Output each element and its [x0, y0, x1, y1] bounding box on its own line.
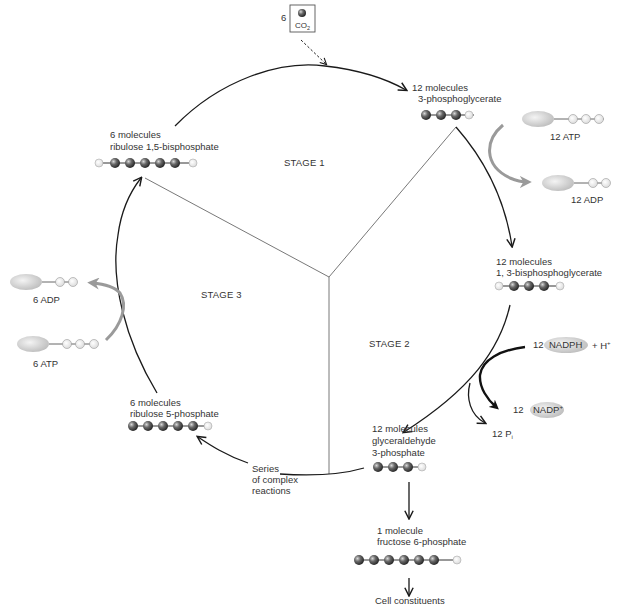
bpg-label-line2: 1, 3-bisphosphoglycerate [496, 267, 602, 278]
adp-12-icon [542, 175, 611, 191]
nadph-to-nadp-arrow [480, 347, 525, 407]
atp-to-adp-stage3-arrow [92, 283, 124, 340]
co2-dashed-arrow [301, 40, 326, 64]
rubp-molecule-icon [95, 158, 197, 168]
bpg-label-line1: 12 molecules [496, 256, 552, 267]
nadph-extra: + H+ [592, 340, 611, 351]
co2-input: 6 CO2 [281, 5, 326, 64]
nadph-label: NADPH [549, 339, 582, 350]
arrow-rubp-to-pga [175, 65, 406, 126]
atp-6-icon [17, 336, 99, 352]
atp-6-label: 6 ATP [33, 358, 58, 369]
adp-6-label: 6 ADP [33, 294, 60, 305]
series-line2: of complex [252, 474, 298, 485]
pga-label-line1: 12 molecules [412, 82, 468, 93]
pi-label: 12 Pi [492, 428, 513, 440]
nadp-label: NADP+ [533, 404, 563, 415]
series-line3: reactions [252, 485, 291, 496]
g3p-label-line3: 3-phosphate [372, 447, 425, 458]
stage-3-label: STAGE 3 [201, 289, 242, 300]
ru5p-label-line2: ribulose 5-phosphate [130, 408, 219, 419]
nadp-count: 12 [513, 404, 524, 415]
f6p-molecule-icon [354, 555, 461, 565]
ru5p-molecule-icon [128, 421, 212, 431]
arrow-ru5p-to-rubp [116, 178, 157, 393]
nadph-count: 12 [533, 339, 544, 350]
g3p-label-line2: glyceraldehyde [372, 435, 436, 446]
arrow-bpg-to-g3p [404, 305, 510, 432]
pga-molecule-icon [421, 110, 474, 120]
g3p-label-line1: 12 molecules [372, 423, 428, 434]
rubp-label-line2: ribulose 1,5-bisphosphate [110, 141, 219, 152]
series-line1: Series [252, 463, 279, 474]
co2-count: 6 [281, 12, 286, 23]
pga-label-line2: 3-phosphoglycerate [418, 93, 501, 104]
carbon-sphere-icon [298, 9, 306, 17]
arrow-series-to-ru5p [198, 437, 248, 463]
f6p-label-line2: fructose 6-phosphate [377, 536, 466, 547]
calvin-cycle-diagram: STAGE 1 STAGE 2 STAGE 3 6 CO2 12 molecul… [0, 0, 621, 613]
atp-12-label: 12 ATP [550, 131, 580, 142]
g3p-molecule-icon [373, 462, 426, 472]
ru5p-label-line1: 6 molecules [130, 397, 181, 408]
cell-constituents-label: Cell constituents [375, 595, 445, 606]
atp-to-adp-stage2-arrow [490, 125, 527, 182]
adp-12-label: 12 ADP [571, 194, 603, 205]
stage-1-label: STAGE 1 [284, 157, 325, 168]
arrow-pga-to-bpg [456, 127, 512, 246]
f6p-label-line1: 1 molecule [377, 525, 423, 536]
rubp-label-line1: 6 molecules [110, 129, 161, 140]
adp-6-icon [10, 274, 78, 290]
stage-2-label: STAGE 2 [369, 338, 410, 349]
divider-stage1-stage2 [329, 127, 456, 277]
atp-12-icon [522, 111, 604, 127]
bpg-molecule-icon [495, 281, 564, 291]
divider-stage1-stage3 [145, 178, 329, 277]
